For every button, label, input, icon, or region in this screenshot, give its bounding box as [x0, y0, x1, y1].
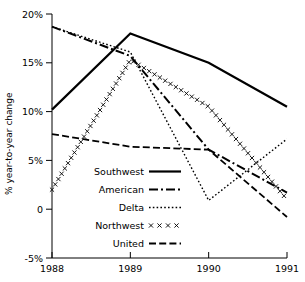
northwest-marker: [124, 65, 128, 69]
northwest-marker: [195, 98, 199, 102]
northwest-marker: [56, 177, 60, 181]
northwest-marker: [200, 101, 204, 105]
northwest-marker: [149, 223, 153, 227]
northwest-marker: [79, 140, 83, 144]
x-tick-label: 1991: [275, 263, 299, 274]
northwest-marker: [95, 113, 99, 117]
northwest-marker: [108, 92, 112, 96]
legend-label-southwest: Southwest: [94, 166, 144, 177]
northwest-marker: [127, 60, 131, 64]
northwest-marker: [72, 150, 76, 154]
northwest-marker: [111, 87, 115, 91]
chart-legend: SouthwestAmericanDeltaNorthwestUnited: [94, 166, 181, 249]
series-american: [52, 27, 287, 193]
series-united: [52, 134, 287, 217]
northwest-marker: [238, 142, 242, 146]
northwest-marker: [282, 194, 286, 198]
northwest-marker: [147, 69, 151, 73]
northwest-marker: [174, 223, 178, 227]
chart-container: % year-to-year change -5%05%10%15%20% 19…: [0, 0, 305, 282]
x-tick-label: 1989: [118, 263, 142, 274]
northwest-marker: [114, 81, 118, 85]
y-tick-label: 0: [37, 204, 43, 215]
northwest-marker: [63, 166, 67, 170]
northwest-marker: [92, 119, 96, 123]
northwest-marker: [250, 156, 254, 160]
northwest-marker: [136, 63, 140, 67]
northwest-marker: [234, 137, 238, 141]
northwest-marker: [226, 127, 230, 131]
northwest-marker: [258, 165, 262, 169]
northwest-marker: [142, 66, 146, 70]
northwest-marker: [222, 123, 226, 127]
y-tick-label: 20%: [22, 9, 43, 20]
northwest-marker: [210, 109, 214, 113]
x-axis-ticks: 1988198919901991: [40, 252, 299, 274]
northwest-marker: [53, 182, 57, 186]
northwest-marker: [98, 108, 102, 112]
y-tick-label: 10%: [22, 106, 43, 117]
northwest-marker: [168, 82, 172, 86]
northwest-marker: [101, 103, 105, 107]
northwest-marker: [104, 97, 108, 101]
legend-label-united: United: [113, 238, 144, 249]
series-southwest: [52, 34, 287, 110]
line-chart: % year-to-year change -5%05%10%15%20% 19…: [0, 0, 305, 282]
northwest-marker: [266, 175, 270, 179]
northwest-marker: [163, 79, 167, 83]
northwest-marker: [85, 129, 89, 133]
northwest-marker: [117, 76, 121, 80]
northwest-marker: [157, 223, 161, 227]
northwest-marker: [274, 184, 278, 188]
northwest-marker: [66, 161, 70, 165]
northwest-marker: [69, 156, 73, 160]
northwest-marker: [214, 113, 218, 117]
northwest-marker: [242, 146, 246, 150]
northwest-marker: [270, 180, 274, 184]
y-tick-label: -5%: [25, 253, 44, 264]
x-tick-label: 1990: [197, 263, 221, 274]
northwest-marker: [76, 145, 80, 149]
northwest-marker: [184, 91, 188, 95]
northwest-marker: [179, 88, 183, 92]
northwest-marker: [218, 118, 222, 122]
y-tick-label: 15%: [22, 57, 43, 68]
northwest-marker: [166, 223, 170, 227]
northwest-marker: [88, 124, 92, 128]
y-axis-ticks: -5%05%10%15%20%: [22, 9, 52, 264]
legend-label-northwest: Northwest: [95, 220, 144, 231]
northwest-marker: [82, 134, 86, 138]
northwest-marker: [230, 132, 234, 136]
northwest-marker: [158, 75, 162, 79]
northwest-marker: [190, 95, 194, 99]
y-tick-label: 5%: [28, 155, 43, 166]
legend-swatch-northwest: [149, 223, 179, 227]
northwest-marker: [152, 72, 156, 76]
northwest-marker: [206, 104, 210, 108]
northwest-marker: [120, 71, 124, 75]
legend-label-american: American: [99, 184, 144, 195]
northwest-marker: [174, 85, 178, 89]
northwest-marker: [60, 172, 64, 176]
y-axis-title: % year-to-year change: [4, 92, 14, 195]
northwest-marker: [246, 151, 250, 155]
series-northwest: [50, 60, 286, 198]
northwest-marker: [278, 189, 282, 193]
x-tick-label: 1988: [40, 263, 64, 274]
northwest-marker: [262, 170, 266, 174]
legend-label-delta: Delta: [119, 202, 144, 213]
series-layer: [50, 27, 287, 217]
